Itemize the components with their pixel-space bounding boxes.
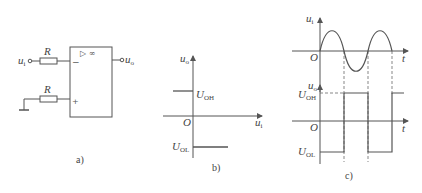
input-label: ui [18, 54, 26, 68]
c-low-label: UOL [298, 145, 315, 159]
resistor-r1 [40, 58, 57, 64]
caption-c: c) [345, 170, 353, 182]
caption-b: b) [212, 162, 220, 174]
resistor-r2 [40, 96, 57, 102]
input-terminal [28, 59, 32, 63]
inverting-sign: − [72, 57, 80, 67]
b-origin: O [183, 116, 191, 128]
c-bottom-origin: O [310, 121, 318, 133]
b-y-label: uo [180, 52, 190, 66]
waveforms-c [292, 18, 408, 164]
c-top-y-label: ui [306, 12, 314, 26]
c-top-origin: O [310, 51, 318, 63]
comparator-diagram: ui uo R R ▷ ∞ − + a) uo ui O UOH UOL b) … [0, 0, 422, 193]
output-terminal [120, 58, 124, 62]
caption-a: a) [76, 154, 84, 166]
square-wave [320, 93, 404, 152]
resistor2-label: R [43, 83, 51, 95]
c-bottom-x-label: t [402, 122, 406, 134]
c-top-x-label: t [402, 52, 406, 64]
resistor1-label: R [43, 45, 51, 57]
b-x-label: ui [255, 116, 263, 130]
opamp-symbol: ▷ ∞ [80, 49, 95, 58]
b-low-label: UOL [172, 140, 189, 154]
c-bottom-y-label: uo [308, 79, 318, 93]
output-label: uo [125, 53, 135, 67]
b-high-label: UOH [196, 88, 214, 102]
noninverting-sign: + [72, 97, 79, 106]
